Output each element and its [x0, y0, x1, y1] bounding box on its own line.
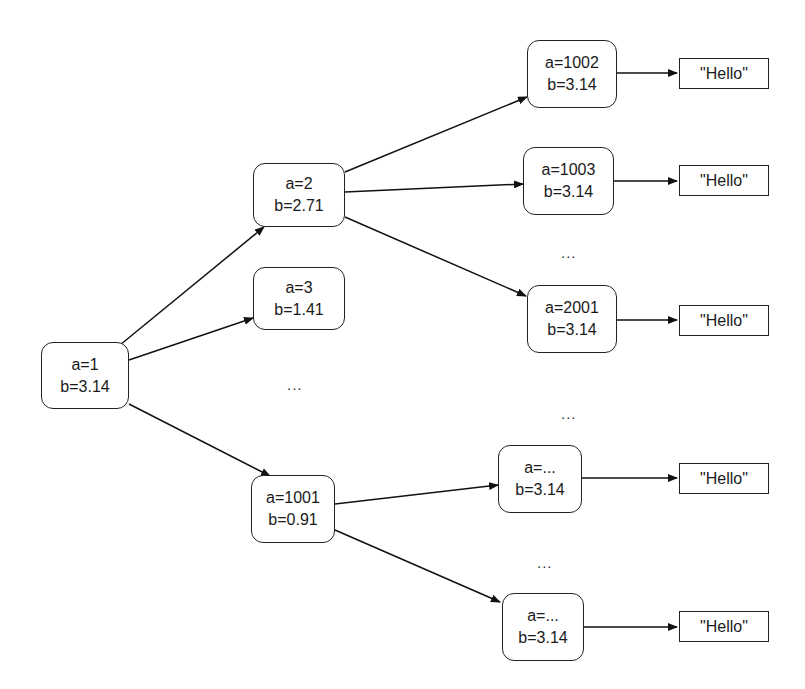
edge-n2-n1002 [345, 97, 527, 172]
value-hello-2: "Hello" [679, 165, 769, 196]
node-b-label: b=2.71 [274, 195, 323, 217]
node-a-label: a=1002 [545, 52, 599, 74]
value-hello-1: "Hello" [679, 58, 769, 89]
edge-n1001-nx1 [335, 485, 498, 504]
edge-n1-n2 [120, 227, 264, 345]
ellipsis-level2-c: ... [537, 554, 553, 571]
node-a-label: a=2001 [545, 297, 599, 319]
edge-n2-n1003 [345, 184, 523, 192]
node-b-label: b=3.14 [547, 74, 596, 96]
edge-n2-n2001 [345, 217, 526, 296]
node-a-label: a=1001 [266, 487, 320, 509]
node-a2: a=2 b=2.71 [253, 163, 345, 227]
value-hello-4: "Hello" [679, 463, 769, 494]
node-a-label: a=... [524, 457, 556, 479]
value-hello-5: "Hello" [679, 611, 769, 642]
ellipsis-level2-a: ... [561, 244, 577, 261]
node-a1003: a=1003 b=3.14 [523, 147, 614, 215]
node-a-ellipsis-2: a=... b=3.14 [502, 593, 584, 661]
node-b-label: b=3.14 [60, 376, 109, 398]
node-a-label: a=... [527, 605, 559, 627]
node-a3: a=3 b=1.41 [253, 267, 345, 330]
value-hello-3: "Hello" [679, 305, 769, 336]
edge-n1001-nx2 [335, 530, 500, 602]
node-b-label: b=0.91 [268, 509, 317, 531]
node-b-label: b=3.14 [515, 479, 564, 501]
ellipsis-level1: ... [287, 376, 303, 393]
node-a-label: a=2 [285, 173, 312, 195]
node-a-ellipsis-1: a=... b=3.14 [498, 445, 582, 513]
node-a1: a=1 b=3.14 [41, 342, 129, 409]
node-a1001: a=1001 b=0.91 [251, 475, 335, 543]
edge-n1-n1001 [129, 404, 270, 476]
ellipsis-level2-b: ... [561, 405, 577, 422]
node-b-label: b=3.14 [518, 627, 567, 649]
node-b-label: b=1.41 [274, 299, 323, 321]
edge-n1-n3 [129, 318, 253, 360]
node-a-label: a=1003 [542, 159, 596, 181]
node-a1002: a=1002 b=3.14 [527, 40, 617, 108]
node-a2001: a=2001 b=3.14 [527, 285, 617, 353]
node-a-label: a=3 [285, 277, 312, 299]
node-a-label: a=1 [71, 354, 98, 376]
node-b-label: b=3.14 [544, 181, 593, 203]
node-b-label: b=3.14 [547, 319, 596, 341]
